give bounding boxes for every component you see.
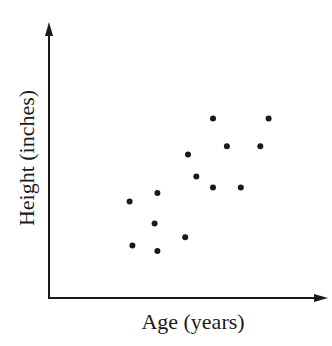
data-point bbox=[193, 174, 199, 180]
y-axis-arrow-icon bbox=[45, 22, 53, 36]
data-point bbox=[210, 185, 216, 191]
x-axis-label: Age (years) bbox=[141, 309, 244, 334]
data-point bbox=[154, 190, 160, 196]
data-point bbox=[185, 152, 191, 158]
data-point bbox=[266, 116, 272, 122]
data-point bbox=[129, 243, 135, 249]
scatter-chart: Height (inches) Age (years) bbox=[0, 0, 332, 346]
y-axis bbox=[45, 22, 53, 298]
data-point bbox=[182, 234, 188, 240]
y-axis-label: Height (inches) bbox=[14, 90, 39, 226]
data-point bbox=[257, 143, 263, 149]
data-point bbox=[238, 185, 244, 191]
data-point bbox=[127, 198, 133, 204]
data-point bbox=[210, 116, 216, 122]
data-point bbox=[154, 248, 160, 254]
data-point bbox=[224, 143, 230, 149]
data-point bbox=[152, 221, 158, 227]
data-points bbox=[127, 116, 272, 255]
x-axis bbox=[48, 294, 328, 302]
x-axis-arrow-icon bbox=[314, 294, 328, 302]
